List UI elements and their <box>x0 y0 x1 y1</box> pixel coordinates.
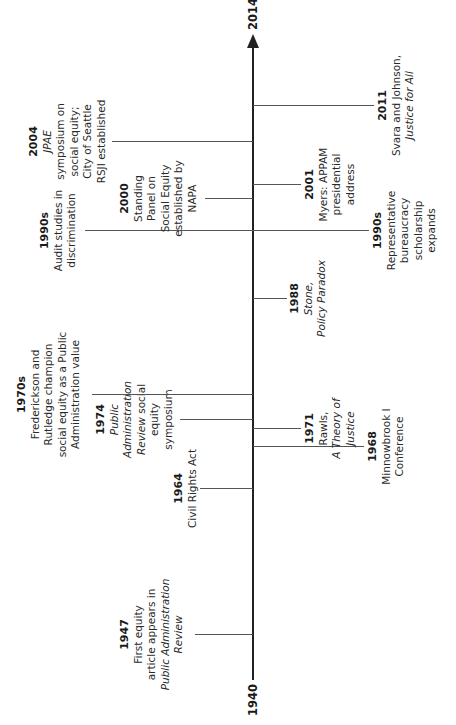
event-year: 2004 <box>27 126 40 157</box>
event-description-line: Standing <box>132 175 144 222</box>
event-description-line: NAPA <box>186 184 198 213</box>
event-label: 1964Civil Rights Act <box>172 449 198 528</box>
timeline-event: 2011Svara and Johnson,Justice for All <box>253 55 415 156</box>
event-description-line: A Theory of <box>330 396 342 460</box>
event-year: 1947 <box>118 619 131 650</box>
event-description-line: bureaucracy <box>398 198 410 263</box>
event-label: 1990sAudit studies indiscrimination <box>38 190 77 272</box>
event-year: 1990s <box>38 211 51 249</box>
event-year: 2001 <box>303 169 316 200</box>
event-description-line: presidential <box>330 154 342 216</box>
event-label: 1971Rawls,A Theory ofJustice <box>303 396 356 460</box>
event-description-line: Rutledge champion <box>42 344 54 446</box>
event-year: 2011 <box>376 90 389 121</box>
timeline-event: 2000StandingPanel onSocial Equityestabli… <box>118 160 253 236</box>
event-label: 1947First equityarticle appears inPublic… <box>118 579 184 691</box>
event-description-line: Justice for All <box>403 71 415 142</box>
event-label: 2004JPAEsymposium onsocial equity;City o… <box>27 100 107 184</box>
event-description-line: article appears in <box>145 589 157 681</box>
event-description-line: Civil Rights Act <box>186 449 198 528</box>
event-year: 1971 <box>303 413 316 444</box>
event-description-line: discrimination <box>65 193 77 267</box>
timeline-event: 2001Myers: APPAMpresidentialaddress <box>253 148 356 222</box>
event-label: 1968Minnowbrook IConference <box>366 408 405 484</box>
event-description-line: symposium <box>162 389 174 449</box>
event-description-line: Stone, <box>302 282 314 316</box>
event-description-line: address <box>344 164 356 205</box>
timeline-axis: 1940 2014 <box>246 0 260 716</box>
timeline-event: 1968Minnowbrook IConference <box>253 408 405 484</box>
event-description-line: First equity <box>132 605 144 663</box>
arrow-head-icon <box>247 34 259 48</box>
event-description-line: Audit studies in <box>52 190 64 272</box>
axis-end-label: 2014 <box>246 0 260 30</box>
event-description-line: Administration <box>121 381 133 459</box>
event-year: 1974 <box>94 404 107 435</box>
event-description-line: expands <box>425 208 437 252</box>
event-description-line: Public <box>108 404 120 435</box>
event-description-line: Representative <box>385 191 397 270</box>
event-description-line: Minnowbrook I <box>380 408 392 484</box>
event-description-line: City of Seattle <box>81 104 93 179</box>
event-label: 2011Svara and Johnson,Justice for All <box>376 55 415 156</box>
timeline-event: 1974PublicAdministrationReview socialequ… <box>94 381 253 459</box>
event-label: 1974PublicAdministrationReview socialequ… <box>94 381 174 459</box>
event-description-line: social equity; <box>68 107 80 177</box>
event-description-line: Review <box>172 615 184 653</box>
timeline-event: 1947First equityarticle appears inPublic… <box>118 579 253 691</box>
event-description-line: Public Administration <box>159 579 171 691</box>
event-description-line: Social Equity <box>159 165 171 233</box>
event-description-line: Conference <box>393 416 405 476</box>
event-label: 1988Stone,Policy Paradox <box>288 259 327 337</box>
event-description-line: Myers: APPAM <box>317 148 329 222</box>
timeline-event: 1971Rawls,A Theory ofJustice <box>253 396 356 460</box>
event-label: 2001Myers: APPAMpresidentialaddress <box>303 148 356 222</box>
event-label: 2000StandingPanel onSocial Equityestabli… <box>118 160 198 236</box>
event-description-line: Svara and Johnson, <box>390 55 402 156</box>
event-label: 1970sFrederickson andRutledge championso… <box>15 331 81 457</box>
event-description-line: Policy Paradox <box>315 259 327 337</box>
timeline-event: 1988Stone,Policy Paradox <box>253 259 327 337</box>
event-description-line: Frederickson and <box>29 350 41 440</box>
event-year: 1968 <box>366 431 379 462</box>
event-year: 2000 <box>118 183 131 214</box>
event-description-line: social equity as a Public <box>56 331 68 457</box>
event-description-line: JPAE <box>41 130 53 155</box>
event-description-line: Justice <box>344 411 356 448</box>
event-year: 1964 <box>172 473 185 504</box>
event-description-line: scholarship <box>412 200 424 260</box>
axis-start-label: 1940 <box>246 684 260 716</box>
event-description-line: RSJI established <box>95 100 107 184</box>
event-year: 1990s <box>371 211 384 249</box>
event-description-line: established by <box>172 160 184 236</box>
event-year: 1988 <box>288 283 301 314</box>
timeline-event: 2004JPAEsymposium onsocial equity;City o… <box>27 100 253 184</box>
event-description-line: symposium on <box>54 103 66 180</box>
event-year: 1970s <box>15 375 28 413</box>
event-label: 1990sRepresentativebureaucracyscholarshi… <box>371 191 437 270</box>
timeline-event: 1964Civil Rights Act <box>172 449 253 528</box>
timeline-diagram: 1940 2014 1947First equityarticle appear… <box>0 0 456 725</box>
event-description-line: Administration value <box>69 340 81 449</box>
event-description-line: equity <box>148 403 160 436</box>
timeline-events: 1947First equityarticle appears inPublic… <box>15 55 437 690</box>
event-description-line: Rawls, <box>317 412 329 446</box>
event-description-line: Panel on <box>145 176 157 221</box>
